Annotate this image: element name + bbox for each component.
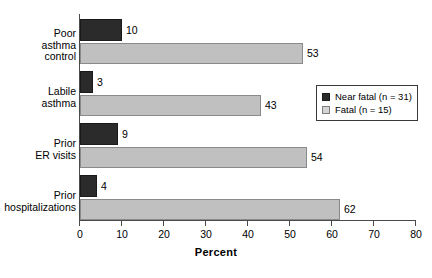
bar-value-near-fatal: 4 xyxy=(101,181,107,192)
bar-group-prior-hospitalizations: 4 62 xyxy=(79,173,415,223)
chart-legend: Near fatal (n = 31) Fatal (n = 15) xyxy=(316,85,418,121)
x-tick xyxy=(373,220,374,226)
bar-near-fatal xyxy=(80,123,118,145)
category-label-line: asthma xyxy=(0,98,76,110)
x-tick-label: 10 xyxy=(107,229,137,240)
x-tick xyxy=(163,220,164,226)
category-label-poor-asthma-control: Poor asthma control xyxy=(0,28,76,63)
legend-entry-near-fatal: Near fatal (n = 31) xyxy=(322,90,412,103)
bar-value-fatal: 53 xyxy=(307,48,319,59)
category-label-line: Poor xyxy=(0,28,76,40)
category-label-line: Prior xyxy=(0,190,76,202)
x-tick xyxy=(289,220,290,226)
x-tick-label: 0 xyxy=(65,229,95,240)
x-tick-label: 20 xyxy=(149,229,179,240)
category-label-line: control xyxy=(0,51,76,63)
bar-fatal xyxy=(80,147,307,168)
bar-fatal xyxy=(80,43,303,64)
bar-value-fatal: 62 xyxy=(344,204,356,215)
category-axis-labels: Poor asthma control Labile asthma Prior … xyxy=(0,14,76,220)
dark-square-icon xyxy=(322,93,330,101)
category-label-line: Prior xyxy=(0,138,76,150)
bar-value-near-fatal: 10 xyxy=(126,25,138,36)
x-tick xyxy=(415,220,416,226)
bar-near-fatal xyxy=(80,175,97,197)
x-tick xyxy=(247,220,248,226)
bar-fatal xyxy=(80,95,261,116)
bar-value-fatal: 54 xyxy=(311,152,323,163)
bar-near-fatal xyxy=(80,19,122,41)
bar-value-near-fatal: 3 xyxy=(97,77,103,88)
x-tick-label: 60 xyxy=(317,229,347,240)
x-tick-label: 80 xyxy=(401,229,431,240)
category-label-line: ER visits xyxy=(0,150,76,162)
category-label-line: hospitalizations xyxy=(0,202,76,214)
bar-chart-figure: Poor asthma control Labile asthma Prior … xyxy=(0,0,432,278)
x-axis-title: Percent xyxy=(0,246,432,258)
x-tick-label: 50 xyxy=(275,229,305,240)
category-label-labile-asthma: Labile asthma xyxy=(0,86,76,109)
category-label-line: Labile xyxy=(0,86,76,98)
gray-square-icon xyxy=(322,106,330,114)
caption-remnant xyxy=(0,268,432,278)
bar-fatal xyxy=(80,199,340,220)
x-tick-label: 30 xyxy=(191,229,221,240)
x-tick-label: 70 xyxy=(359,229,389,240)
bar-value-fatal: 43 xyxy=(265,100,277,111)
legend-label: Fatal (n = 15) xyxy=(335,105,392,115)
x-tick xyxy=(331,220,332,226)
bar-near-fatal xyxy=(80,71,93,93)
bar-group-prior-er-visits: 9 54 xyxy=(79,121,415,171)
x-tick xyxy=(205,220,206,226)
legend-entry-fatal: Fatal (n = 15) xyxy=(322,103,412,116)
category-label-prior-hospitalizations: Prior hospitalizations xyxy=(0,190,76,213)
category-label-prior-er-visits: Prior ER visits xyxy=(0,138,76,161)
bar-value-near-fatal: 9 xyxy=(122,129,128,140)
legend-label: Near fatal (n = 31) xyxy=(335,92,412,102)
bar-group-poor-asthma-control: 10 53 xyxy=(79,17,415,67)
x-tick-label: 40 xyxy=(233,229,263,240)
x-tick xyxy=(121,220,122,226)
x-tick xyxy=(79,220,80,226)
